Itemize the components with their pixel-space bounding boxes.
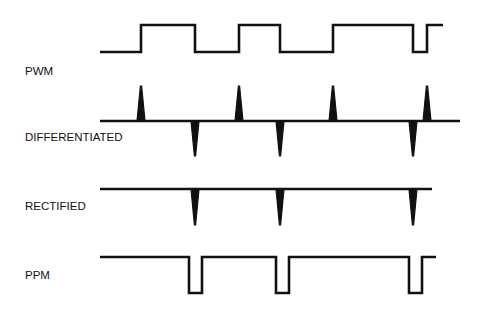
differentiated-spike-negative — [191, 121, 199, 156]
differentiated-spike-positive — [137, 86, 145, 121]
pwm-waveform — [100, 25, 443, 52]
rectified-spike-negative — [409, 189, 417, 225]
label-rectified: RECTIFIED — [25, 200, 86, 212]
rectified-waveform — [100, 189, 432, 225]
label-differentiated: DIFFERENTIATED — [25, 131, 123, 143]
differentiated-spike-positive — [423, 86, 431, 121]
differentiated-waveform — [100, 86, 460, 156]
differentiated-spike-positive — [235, 86, 243, 121]
label-pwm: PWM — [25, 65, 53, 77]
rectified-spike-negative — [276, 189, 284, 225]
ppm-waveform — [100, 257, 436, 293]
row-pwm: PWM — [25, 25, 443, 77]
rectified-spike-negative — [191, 189, 199, 225]
pulse-modulation-diagram: PWM DIFFERENTIATED RECTIFIED PPM — [0, 0, 485, 317]
differentiated-spike-positive — [329, 86, 337, 121]
row-ppm: PPM — [25, 257, 436, 293]
row-rectified: RECTIFIED — [25, 189, 432, 225]
differentiated-spike-negative — [409, 121, 417, 156]
differentiated-spike-negative — [276, 121, 284, 156]
row-differentiated: DIFFERENTIATED — [25, 86, 460, 156]
label-ppm: PPM — [25, 269, 50, 281]
